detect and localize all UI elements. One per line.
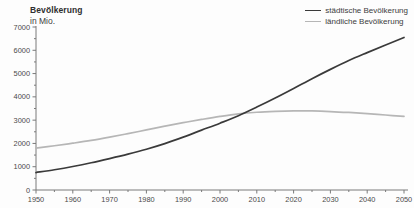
y-tick-label: 5000 — [14, 69, 30, 78]
x-tick-label: 2040 — [359, 195, 375, 204]
population-line-chart: Bevölkerung in Mio. städtische Bevölkeru… — [0, 0, 414, 208]
x-tick-label: 2000 — [212, 195, 228, 204]
y-tick-label: 2000 — [14, 139, 30, 148]
series-line-rural — [36, 111, 404, 148]
y-tick-label: 4000 — [14, 92, 30, 101]
y-tick-label: 3000 — [14, 116, 30, 125]
y-tick-label: 1000 — [14, 162, 30, 171]
series-line-urban — [36, 37, 404, 172]
plot-area: 0100020003000400050006000700019501960197… — [0, 0, 414, 208]
x-tick-label: 2050 — [396, 195, 412, 204]
x-tick-label: 1950 — [28, 195, 44, 204]
x-tick-label: 1970 — [101, 195, 117, 204]
x-tick-label: 1980 — [138, 195, 154, 204]
y-tick-label: 6000 — [14, 46, 30, 55]
x-tick-label: 2010 — [249, 195, 265, 204]
y-tick-label: 0 — [26, 186, 30, 195]
x-tick-label: 2020 — [285, 195, 301, 204]
y-tick-label: 7000 — [14, 23, 30, 32]
x-tick-label: 1960 — [65, 195, 81, 204]
x-tick-label: 2030 — [322, 195, 338, 204]
x-tick-label: 1990 — [175, 195, 191, 204]
